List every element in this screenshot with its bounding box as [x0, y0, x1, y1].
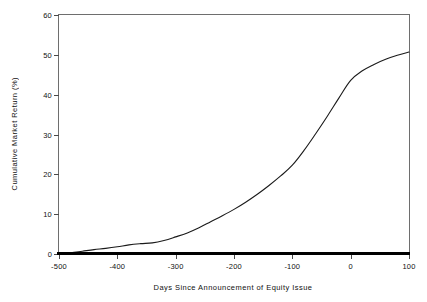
figure: Cumulative Market Return (%) 01020304050… — [0, 0, 427, 302]
x-tick-label: -500 — [51, 262, 67, 271]
y-axis-title: Cumulative Market Return (%) — [8, 14, 20, 253]
x-tick-label: 100 — [402, 262, 415, 271]
y-tick-label: 50 — [43, 50, 52, 59]
y-tick-label: 10 — [43, 210, 52, 219]
x-tick-label: -100 — [284, 262, 300, 271]
x-tick-label: -200 — [226, 262, 242, 271]
x-axis-title: Days Since Announcement of Equity Issue — [58, 283, 408, 292]
x-tick-label: 0 — [348, 262, 352, 271]
y-tick-mark — [54, 214, 59, 215]
y-axis-title-text: Cumulative Market Return (%) — [10, 77, 19, 190]
y-tick-label: 30 — [43, 130, 52, 139]
y-tick-label: 0 — [48, 250, 52, 259]
series-line-cumulative-market-return — [59, 52, 409, 254]
x-axis-baseline — [57, 252, 410, 255]
x-tick-label: -400 — [109, 262, 125, 271]
data-line-chart — [59, 15, 409, 254]
x-axis-title-text: Days Since Announcement of Equity Issue — [154, 283, 313, 292]
y-tick-mark — [54, 135, 59, 136]
y-tick-label: 40 — [43, 90, 52, 99]
y-tick-label: 20 — [43, 170, 52, 179]
plot-area: 0102030405060 -500-400-300-200-1000100 — [58, 14, 410, 254]
y-tick-mark — [54, 174, 59, 175]
y-tick-label: 60 — [43, 11, 52, 20]
x-tick-label: -300 — [168, 262, 184, 271]
y-tick-mark — [54, 95, 59, 96]
y-tick-mark — [54, 15, 59, 16]
y-tick-mark — [54, 55, 59, 56]
